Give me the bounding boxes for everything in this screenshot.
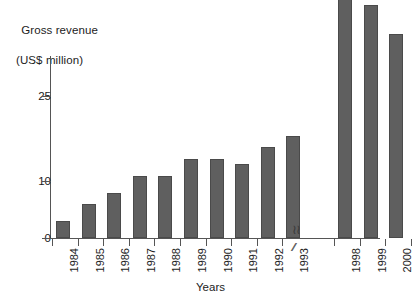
x-tick-mark bbox=[52, 239, 53, 246]
bar-1990 bbox=[210, 159, 224, 238]
y-axis-line bbox=[50, 56, 51, 239]
x-tick-label-1992: 1992 bbox=[273, 248, 285, 272]
bar-1988 bbox=[158, 176, 172, 238]
bar-1984 bbox=[56, 221, 70, 238]
x-tick-label-1991: 1991 bbox=[247, 248, 259, 272]
x-tick-mark bbox=[129, 239, 130, 246]
x-tick-label-1987: 1987 bbox=[145, 248, 157, 272]
x-axis-title: Years bbox=[196, 281, 225, 293]
bar-1989 bbox=[184, 159, 198, 238]
x-tick-mark bbox=[180, 239, 181, 246]
x-tick-label-1984: 1984 bbox=[68, 248, 80, 272]
bar-1991 bbox=[235, 164, 249, 238]
x-tick-mark bbox=[411, 239, 412, 246]
x-tick-mark bbox=[282, 239, 283, 246]
y-tick-mark bbox=[42, 96, 51, 97]
x-tick-label-1998: 1998 bbox=[350, 248, 362, 272]
x-tick-label-1993: 1993 bbox=[298, 248, 310, 272]
x-axis-line bbox=[50, 238, 380, 239]
x-tick-label-1989: 1989 bbox=[196, 248, 208, 272]
bar-2000 bbox=[389, 34, 403, 238]
bar-1998 bbox=[338, 0, 352, 238]
bar-1992 bbox=[261, 147, 275, 238]
axis-break-label-icon: ⁄⁄ bbox=[293, 241, 295, 253]
x-tick-mark bbox=[385, 239, 386, 246]
x-tick-mark bbox=[206, 239, 207, 246]
x-tick-mark bbox=[360, 239, 361, 246]
x-tick-label-1988: 1988 bbox=[170, 248, 182, 272]
bar-1999 bbox=[364, 5, 378, 238]
x-tick-label-1986: 1986 bbox=[119, 248, 131, 272]
x-tick-mark bbox=[78, 239, 79, 246]
x-tick-label-1985: 1985 bbox=[94, 248, 106, 272]
x-tick-mark bbox=[257, 239, 258, 246]
x-tick-mark bbox=[154, 239, 155, 246]
bar-1986 bbox=[107, 193, 121, 238]
x-tick-mark bbox=[231, 239, 232, 246]
x-tick-label-2000: 2000 bbox=[401, 248, 413, 272]
x-tick-mark bbox=[103, 239, 104, 246]
y-tick-mark bbox=[42, 238, 51, 239]
bar-1985 bbox=[82, 204, 96, 238]
axis-break-icon: ≀≀ bbox=[292, 222, 300, 237]
bar-1987 bbox=[133, 176, 147, 238]
y-tick-mark bbox=[42, 181, 51, 182]
x-tick-label-1990: 1990 bbox=[222, 248, 234, 272]
x-tick-mark bbox=[334, 239, 335, 246]
x-tick-label-1999: 1999 bbox=[376, 248, 388, 272]
